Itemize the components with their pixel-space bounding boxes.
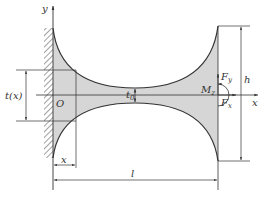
x-axis-label: x [252,97,258,108]
fixed-wall-hatch [44,28,53,158]
force-x-label: Fx [220,97,232,110]
x-dimension-label: x [61,154,67,165]
beam-body [53,26,218,161]
thickness-function-label: t(x) [5,90,23,101]
height-label: h [244,74,250,85]
force-y-label: Fy [220,71,233,84]
origin-label: O [56,98,64,109]
beam-diagram: y x O t(x) t0 Fy Fx Mz h x l [0,0,264,197]
length-label: l [131,168,134,179]
y-axis-label: y [41,3,48,14]
